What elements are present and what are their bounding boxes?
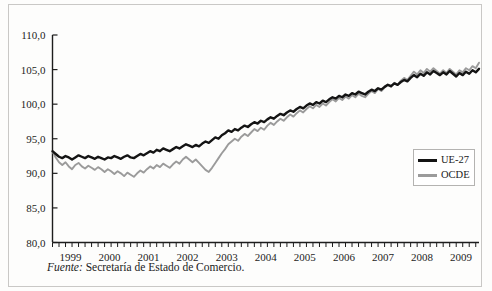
legend-swatch-ocde [418,174,437,177]
x-tick-label: 2006 [333,251,356,263]
legend-entry-ocde: OCDE [418,170,470,181]
y-tick-label: 90,0 [26,167,46,179]
source-note-lead: Fuente: [47,261,83,273]
x-tick-label: 2005 [294,251,317,263]
x-axis-group: 1999200020012002200320042005200620072008… [53,243,480,263]
y-tick-label: 105,0 [21,64,46,76]
line-chart: 80,085,090,095,0100,0105,0110,0 19992000… [0,0,492,291]
y-tick-label: 95,0 [26,133,46,145]
x-tick-label: 2008 [411,251,434,263]
y-tick-label: 85,0 [26,202,46,214]
x-tick-label: 2004 [255,251,278,263]
source-note-text: Secretaría de Estado de Comercio. [86,261,245,273]
y-tick-labels: 80,085,090,095,0100,0105,0110,0 [21,29,46,249]
source-note: Fuente: Secretaría de Estado de Comercio… [47,261,244,273]
legend-entry-ue27: UE-27 [418,155,469,166]
y-tick-label: 110,0 [21,29,46,41]
legend-label-ue27: UE-27 [441,155,469,166]
y-tick-marks [53,35,58,243]
legend-label-ocde: OCDE [441,170,470,181]
y-tick-label: 100,0 [21,98,46,110]
y-axis-group: 80,085,090,095,0100,0105,0110,0 [21,29,58,249]
x-tick-label: 2007 [372,251,395,263]
legend-swatch-ue27 [418,159,437,162]
series-line-ue27 [53,69,480,160]
chart-svg: 80,085,090,095,0100,0105,0110,0 19992000… [0,0,492,291]
x-tick-label: 2009 [450,251,473,263]
chart-page: 80,085,090,095,0100,0105,0110,0 19992000… [0,0,492,291]
y-tick-label: 80,0 [26,237,46,249]
chart-legend: UE-27 OCDE [413,149,475,186]
